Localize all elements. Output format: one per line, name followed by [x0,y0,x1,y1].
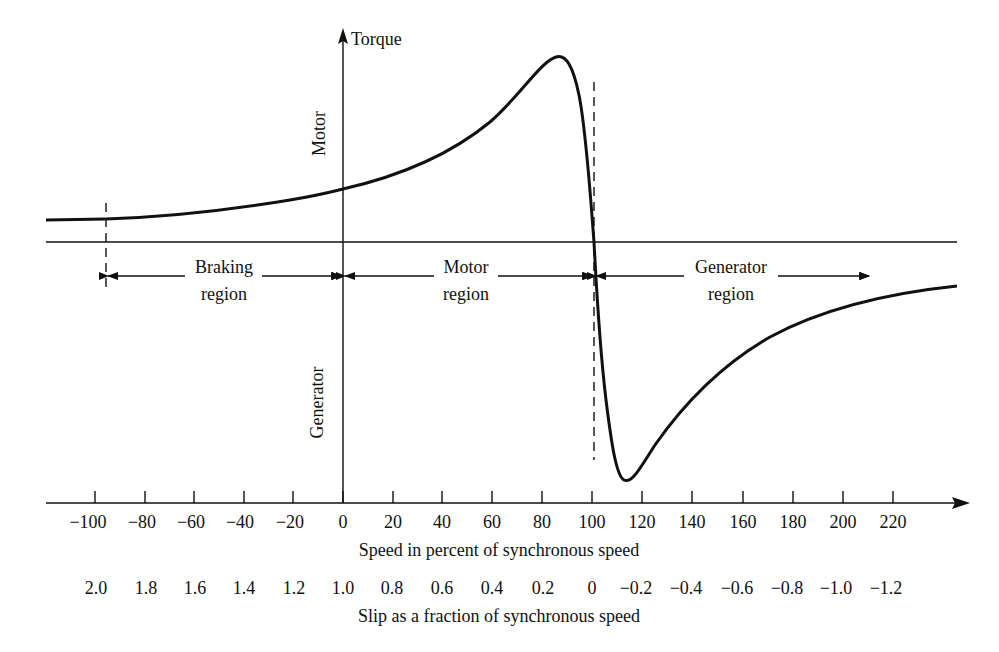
speed-tick-label: 140 [679,512,706,532]
slip-tick-label: 1.6 [184,578,207,598]
torque-axis-label: Torque [351,29,402,49]
braking-region-label-line2: region [201,284,247,304]
slip-tick-label: 1.4 [233,578,256,598]
torque-speed-curve [46,57,957,481]
slip-axis-caption: Slip as a fraction of synchronous speed [358,606,640,626]
slip-tick-label: 2.0 [85,578,108,598]
slip-tick-label: −0.2 [620,578,653,598]
speed-axis-caption: Speed in percent of synchronous speed [359,540,639,560]
speed-tick-label: 160 [730,512,757,532]
speed-tick-label: −80 [128,512,156,532]
speed-tick-label: −100 [69,512,106,532]
speed-tick-label: −20 [276,512,304,532]
motor-region-label-line2: region [443,284,489,304]
speed-tick-label: 220 [880,512,907,532]
motor-region-label-line1: Motor [444,257,489,277]
speed-tick-label: 120 [629,512,656,532]
generator-region-label-line1: Generator [695,257,767,277]
speed-tick-label: −40 [226,512,254,532]
speed-tick-label: 100 [579,512,606,532]
slip-tick-label: 0.2 [532,578,555,598]
speed-ticks [95,491,893,503]
speed-tick-label: 20 [384,512,402,532]
speed-tick-label: 40 [433,512,451,532]
slip-tick-label: −1.2 [870,578,903,598]
generator-region-label-line2: region [708,284,754,304]
braking-region-label-line1: Braking [195,257,253,277]
speed-tick-label: 60 [483,512,501,532]
speed-tick-label: 180 [780,512,807,532]
slip-tick-label: −0.4 [670,578,703,598]
speed-tick-label: 0 [339,512,348,532]
slip-tick-label: 0.6 [431,578,454,598]
slip-tick-label: 1.2 [283,578,306,598]
speed-tick-label: 200 [830,512,857,532]
speed-tick-label: −60 [177,512,205,532]
speed-tick-label: 80 [533,512,551,532]
slip-tick-label: 0.4 [481,578,504,598]
slip-tick-label: −1.0 [820,578,853,598]
motor-side-label: Motor [309,111,330,156]
slip-tick-label: −0.8 [771,578,804,598]
slip-tick-label: 0.8 [381,578,404,598]
slip-tick-label: −0.6 [721,578,754,598]
slip-tick-label: 0 [588,578,597,598]
slip-tick-label: 1.8 [135,578,158,598]
slip-tick-label: 1.0 [332,578,355,598]
generator-side-label: Generator [307,367,328,439]
